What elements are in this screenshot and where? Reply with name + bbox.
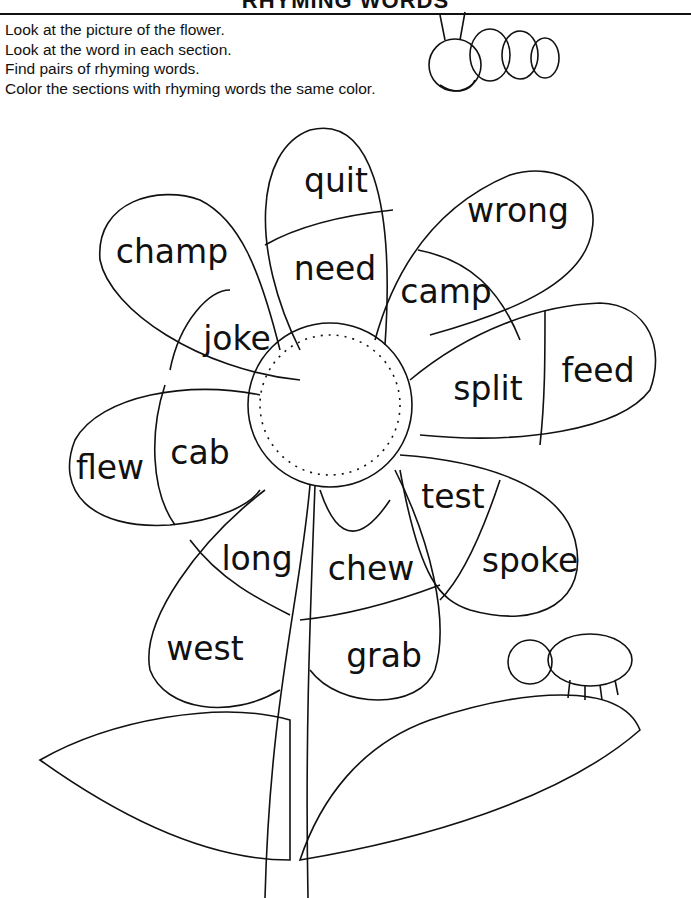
- flower-center: [248, 323, 412, 487]
- leaf: [40, 712, 290, 860]
- section-chew[interactable]: chew: [328, 549, 414, 588]
- section-joke[interactable]: joke: [203, 319, 271, 358]
- section-flew[interactable]: flew: [76, 448, 144, 487]
- section-long[interactable]: long: [221, 539, 292, 578]
- section-west[interactable]: west: [166, 629, 243, 668]
- section-spoke[interactable]: spoke: [482, 541, 579, 580]
- section-cab[interactable]: cab: [170, 433, 229, 472]
- section-quit[interactable]: quit: [304, 161, 368, 200]
- section-test[interactable]: test: [421, 477, 484, 516]
- section-grab[interactable]: grab: [346, 636, 422, 675]
- caterpillar-icon: [508, 634, 632, 700]
- section-champ[interactable]: champ: [116, 232, 228, 271]
- section-camp[interactable]: camp: [400, 272, 491, 311]
- section-feed[interactable]: feed: [561, 351, 634, 390]
- bee-icon: [429, 12, 559, 91]
- section-split[interactable]: split: [453, 369, 522, 408]
- section-wrong[interactable]: wrong: [467, 191, 569, 230]
- section-need[interactable]: need: [294, 249, 376, 288]
